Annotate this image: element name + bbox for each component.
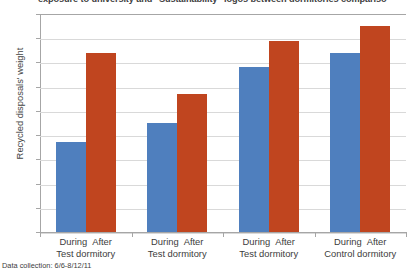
x-group-name: Test dormitory <box>223 248 315 260</box>
bar-after-group-1 <box>86 53 116 232</box>
bar-chart: exposure to university and "Sustainabili… <box>0 0 410 274</box>
bar-after-group-3 <box>269 41 299 232</box>
bar-during-group-3 <box>239 67 269 232</box>
x-sublabel-during: During <box>151 236 179 248</box>
x-group-label-3: DuringAfterTest dormitory <box>223 236 315 260</box>
y-axis-title: Recycled disposals' weight <box>14 29 25 179</box>
x-group-name: Test dormitory <box>40 248 132 260</box>
x-group-label-4: DuringAfterControl dormitory <box>315 236 407 260</box>
bar-after-group-4 <box>360 26 390 232</box>
x-sublabel-after: After <box>184 236 204 248</box>
x-group-name: Control dormitory <box>315 248 407 260</box>
x-sublabel-during: During <box>334 236 362 248</box>
x-sublabel-during: During <box>60 236 88 248</box>
x-group-name: Test dormitory <box>132 248 224 260</box>
x-axis-separator <box>406 232 407 237</box>
x-sublabel-after: After <box>367 236 387 248</box>
data-collection-note: Data collection: 6/6-8/12/11 <box>2 261 91 270</box>
bar-after-group-2 <box>177 94 207 232</box>
bar-during-group-2 <box>147 123 177 232</box>
bar-during-group-1 <box>56 142 86 232</box>
gridline <box>40 39 406 40</box>
x-sublabel-after: After <box>92 236 112 248</box>
bar-during-group-4 <box>330 53 360 232</box>
x-group-label-2: DuringAfterTest dormitory <box>132 236 224 260</box>
x-sublabel-after: After <box>275 236 295 248</box>
chart-title: exposure to university and "Sustainabili… <box>38 0 410 5</box>
plot-area <box>40 14 406 232</box>
x-sublabel-during: During <box>243 236 271 248</box>
x-group-label-1: DuringAfterTest dormitory <box>40 236 132 260</box>
